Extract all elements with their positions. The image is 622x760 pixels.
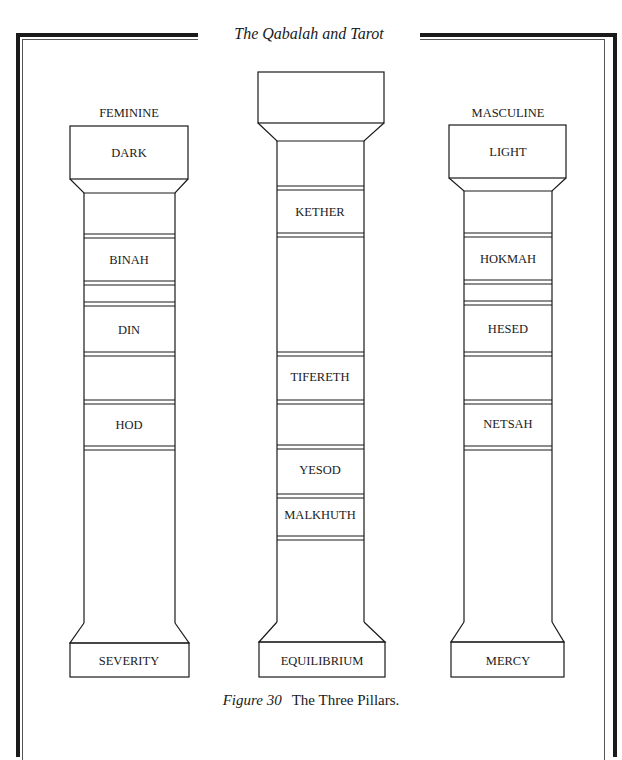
figure-title: The Three Pillars. [292, 692, 400, 708]
pillar-center-capital [258, 72, 384, 123]
pillar-left-capital-chamfer [70, 179, 188, 193]
pillar-left-base-chamfer [70, 623, 189, 643]
pillar-center-capital-chamfer [258, 123, 384, 141]
pillar-right: MASCULINE LIGHT HOKMAH HESED NETSAH MERC… [449, 106, 566, 677]
sephirah-label: DIN [118, 323, 140, 337]
pillar-right-base-chamfer [451, 622, 564, 642]
pillar-center: KETHER TIFERETH YESOD MALKHUTH EQUILIBRI… [258, 72, 385, 677]
pillar-center-base-label: EQUILIBRIUM [281, 654, 364, 668]
sephirah-label: HOKMAH [480, 252, 536, 266]
sephirah-label: BINAH [109, 253, 149, 267]
pillar-left-top-label: FEMININE [99, 106, 159, 120]
sephirah-label: HOD [115, 418, 142, 432]
sephirah-label: TIFERETH [290, 370, 349, 384]
figure-label: Figure 30 [223, 692, 282, 708]
sephirah-label: KETHER [295, 205, 345, 219]
pillar-left: FEMININE DARK BINAH DIN HOD SEVERITY [70, 106, 189, 677]
pillar-right-capital-chamfer [449, 178, 566, 191]
pillar-right-capital-label: LIGHT [489, 145, 527, 159]
pillar-right-base-label: MERCY [486, 654, 530, 668]
pillar-left-capital-label: DARK [111, 146, 146, 160]
figure-caption: Figure 30The Three Pillars. [0, 692, 622, 709]
pillar-left-base-label: SEVERITY [99, 654, 159, 668]
pillar-center-base-chamfer [259, 622, 385, 642]
pillar-center-bands [277, 186, 364, 540]
sephirah-label: YESOD [299, 463, 341, 477]
sephirah-label: NETSAH [483, 417, 532, 431]
pillar-right-top-label: MASCULINE [472, 106, 545, 120]
sephirah-label: HESED [488, 322, 528, 336]
sephirah-label: MALKHUTH [284, 508, 356, 522]
